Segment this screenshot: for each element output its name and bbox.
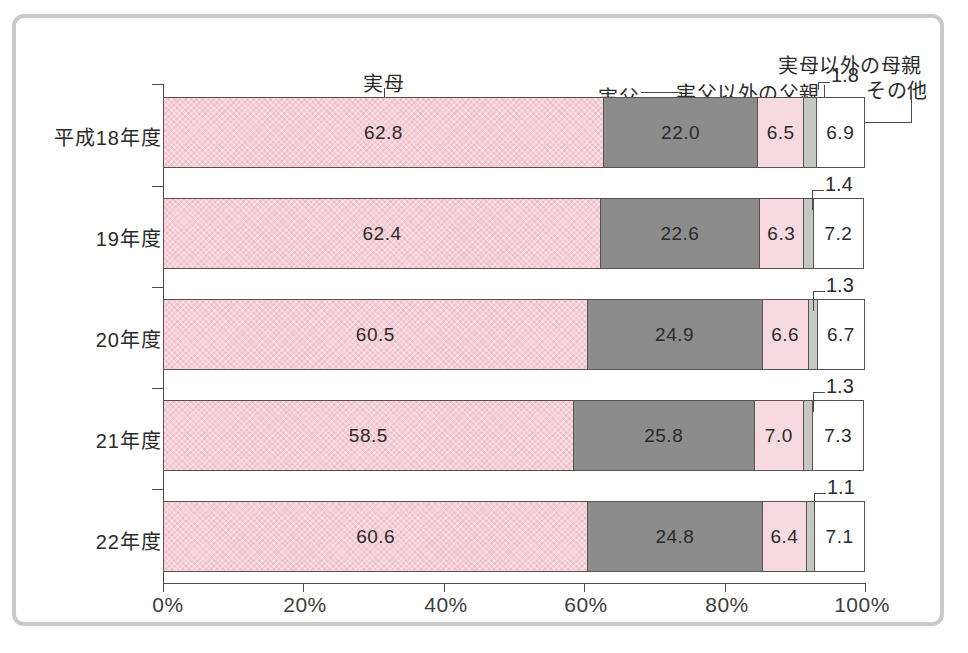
callout-bracket-v-0: [818, 82, 819, 90]
bar-segment-other[interactable]: 6.9: [817, 97, 865, 168]
callout-value-3: 1.3: [826, 375, 854, 398]
bar-value: 60.5: [356, 324, 395, 346]
y-axis-tick: [152, 489, 163, 490]
bar-value: 60.6: [356, 526, 395, 548]
bar-segment-other[interactable]: 7.1: [815, 501, 865, 572]
bar-value: 25.8: [644, 425, 683, 447]
callout-bracket-h-2: [813, 291, 825, 292]
table-row: 58.5 25.8 7.0 1.3 7.3: [163, 400, 865, 471]
stacked-bar-chart: 実母 実父 実父以外の父親 実母以外の母親 その他 平成18年度 19年度 20…: [0, 0, 968, 653]
x-axis-label-20: 20%: [283, 593, 327, 617]
x-axis-tick: [303, 583, 304, 592]
bar-segment-other[interactable]: 6.7: [818, 299, 865, 370]
x-axis-tick: [163, 583, 164, 592]
table-row: 62.8 22.0 6.5 1.8 6.9: [163, 97, 865, 168]
x-axis-label-0: 0%: [152, 593, 183, 617]
bar-segment-birth-mother[interactable]: 62.4: [163, 198, 601, 269]
bar-segment-birth-mother[interactable]: 58.5: [163, 400, 574, 471]
bar-value: 24.8: [655, 526, 694, 548]
bar-value: 58.5: [349, 425, 388, 447]
bar-segment-other-mother[interactable]: 1.3: [804, 400, 813, 471]
bar-segment-other-father[interactable]: 6.5: [758, 97, 804, 168]
y-axis-tick: [152, 186, 163, 187]
x-axis-tick: [584, 583, 585, 592]
callout-value-2: 1.3: [826, 274, 854, 297]
bar-segment-other-father[interactable]: 6.4: [763, 501, 808, 572]
y-axis-tick: [152, 84, 163, 85]
bar-segment-birth-mother[interactable]: 60.5: [163, 299, 588, 370]
y-axis-tick: [152, 287, 163, 288]
x-axis-tick: [444, 583, 445, 592]
x-axis-label-80: 80%: [705, 593, 749, 617]
bar-segment-birth-father[interactable]: 24.9: [588, 299, 763, 370]
bar-segment-birth-father[interactable]: 22.0: [604, 97, 758, 168]
category-label-1: 19年度: [96, 223, 162, 252]
callout-value-1: 1.4: [825, 173, 853, 196]
category-label-4: 22年度: [96, 526, 162, 555]
bar-segment-other-mother[interactable]: 1.8: [804, 97, 817, 168]
callout-bracket-h-3: [813, 392, 825, 393]
bar-value: 6.6: [771, 324, 799, 346]
bar-segment-other[interactable]: 7.3: [813, 400, 864, 471]
bar-segment-other-father[interactable]: 6.3: [760, 198, 804, 269]
bar-value: 22.6: [660, 223, 699, 245]
bar-value: 62.8: [364, 122, 403, 144]
bar-value: 6.3: [767, 223, 795, 245]
callout-line-other-v: [911, 95, 912, 122]
bar-value: 7.2: [825, 223, 853, 245]
callout-bracket-v-3: [813, 392, 814, 412]
table-row: 62.4 22.6 6.3 1.4 7.2: [163, 198, 865, 269]
series-label-other: その他: [866, 75, 928, 104]
table-row: 60.6 24.8 6.4 1.1 7.1: [163, 501, 865, 572]
callout-bracket-v-1: [812, 190, 813, 210]
bar-segment-birth-father[interactable]: 25.8: [574, 400, 755, 471]
callout-bracket-h-4: [814, 493, 826, 494]
callout-bracket-h-1: [812, 190, 824, 191]
category-label-3: 21年度: [96, 425, 162, 454]
callout-bracket-h-0: [818, 82, 830, 83]
callout-bracket-v-2: [813, 291, 814, 311]
bar-value: 7.1: [826, 526, 854, 548]
bar-value: 6.9: [826, 122, 854, 144]
table-row: 60.5 24.9 6.6 1.3 6.7: [163, 299, 865, 370]
bar-segment-birth-mother[interactable]: 60.6: [163, 501, 588, 572]
bar-segment-birth-father[interactable]: 22.6: [601, 198, 760, 269]
x-axis-tick: [865, 583, 866, 592]
bar-value: 6.4: [771, 526, 799, 548]
bar-value: 62.4: [363, 223, 402, 245]
bar-value: 7.0: [765, 425, 793, 447]
x-axis-label-60: 60%: [564, 593, 608, 617]
category-label-2: 20年度: [96, 324, 162, 353]
callout-value-4: 1.1: [827, 476, 855, 499]
x-axis-label-40: 40%: [424, 593, 468, 617]
bar-value: 6.5: [767, 122, 795, 144]
bar-segment-birth-father[interactable]: 24.8: [588, 501, 762, 572]
x-axis-label-100: 100%: [834, 593, 890, 617]
y-axis-tick: [152, 388, 163, 389]
bar-segment-other[interactable]: 7.2: [814, 198, 865, 269]
bar-segment-other-father[interactable]: 7.0: [755, 400, 804, 471]
bar-value: 22.0: [661, 122, 700, 144]
category-label-0: 平成18年度: [54, 122, 162, 151]
bar-segment-other-father[interactable]: 6.6: [763, 299, 809, 370]
callout-value-0: 1.8: [831, 64, 859, 87]
bar-value: 24.9: [655, 324, 694, 346]
callout-bracket-v-4: [814, 493, 815, 513]
x-axis-line: [163, 583, 866, 584]
bar-value: 6.7: [827, 324, 855, 346]
bar-segment-birth-mother[interactable]: 62.8: [163, 97, 604, 168]
x-axis-tick: [725, 583, 726, 592]
bar-value: 7.3: [824, 425, 852, 447]
